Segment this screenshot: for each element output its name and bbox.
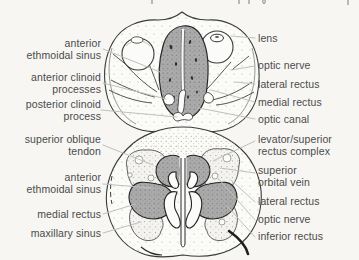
label-anterior-ethmoidal-sinus-upper: anterior ethmoidal sinus — [0, 37, 101, 62]
label-line: ethmoidal sinus — [0, 49, 101, 61]
label-line: tendon — [0, 145, 101, 157]
label-line: maxillary sinus — [0, 227, 101, 239]
left-lens — [131, 37, 143, 43]
label-anterior-ethmoidal-sinus-lower: anterior ethmoidal sinus — [0, 171, 101, 196]
label-posterior-clinoid-process: posterior clinoid process — [0, 98, 101, 123]
label-lens: lens — [258, 32, 359, 44]
label-line: superior oblique — [0, 133, 101, 145]
label-maxillary-sinus: maxillary sinus — [0, 227, 101, 239]
label-line: optic nerve — [258, 213, 359, 225]
label-lateral-rectus-lower: lateral rectus — [258, 195, 359, 207]
label-line: lateral rectus — [258, 195, 359, 207]
label-line: anterior clinoid — [0, 71, 101, 83]
label-inferior-rectus: inferior rectus — [258, 230, 359, 242]
label-medial-rectus-lower: medial rectus — [0, 208, 101, 220]
label-line: inferior rectus — [258, 230, 359, 242]
label-line: anterior — [0, 37, 101, 49]
label-optic-nerve-upper: optic nerve — [258, 59, 359, 71]
cropped-text-descenders-icon — [152, 0, 348, 5]
label-line: processes — [0, 83, 101, 95]
lower-axial-section-illustration — [106, 127, 261, 257]
label-superior-oblique-tendon: superior oblique tendon — [0, 133, 101, 158]
label-line: levator/superior — [258, 133, 359, 145]
label-line: medial rectus — [258, 96, 359, 108]
label-line: medial rectus — [0, 208, 101, 220]
label-levator-superior-rectus-complex: levator/superior rectus complex — [258, 133, 359, 158]
label-optic-nerve-lower: optic nerve — [258, 213, 359, 225]
label-line: optic canal — [258, 113, 359, 125]
label-line: optic nerve — [258, 59, 359, 71]
label-optic-canal: optic canal — [258, 113, 359, 125]
label-line: rectus complex — [258, 145, 359, 157]
upper-axial-section-illustration — [105, 12, 259, 132]
label-superior-orbital-vein: superior orbital vein — [258, 164, 359, 189]
label-line: posterior clinoid — [0, 98, 101, 110]
label-line: process — [0, 110, 101, 122]
label-anterior-clinoid-processes: anterior clinoid processes — [0, 71, 101, 96]
label-line: orbital vein — [258, 176, 359, 188]
label-line: lateral rectus — [258, 78, 359, 90]
right-lens-dot — [215, 36, 219, 38]
nasal-septum-upper — [182, 29, 183, 94]
label-line: ethmoidal sinus — [0, 183, 101, 195]
figure-canvas: anterior ethmoidal sinus anterior clinoi… — [0, 0, 359, 260]
label-line: lens — [258, 32, 359, 44]
label-lateral-rectus-upper: lateral rectus — [258, 78, 359, 90]
label-line: superior — [258, 164, 359, 176]
label-medial-rectus-upper: medial rectus — [258, 96, 359, 108]
label-line: anterior — [0, 171, 101, 183]
